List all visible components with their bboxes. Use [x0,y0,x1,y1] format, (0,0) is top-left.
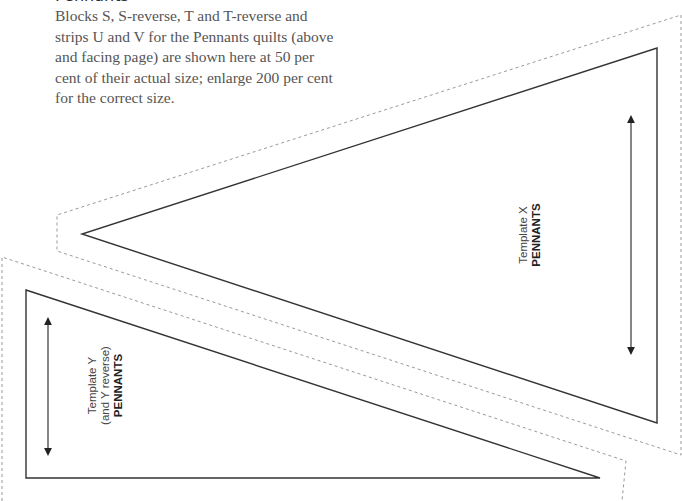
template-x-title: Template X [517,180,530,290]
template-x-label: Template X PENNANTS [517,180,543,290]
template-y-title: Template Y [86,331,99,441]
template-y-subtitle: (and Y reverse) [99,331,112,441]
template-y-label: Template Y (and Y reverse) PENNANTS [86,331,125,441]
template-x-name: PENNANTS [530,180,543,290]
template-x-outline [82,48,657,423]
template-x-seam-allowance [57,15,681,455]
template-y-name: PENNANTS [112,331,125,441]
